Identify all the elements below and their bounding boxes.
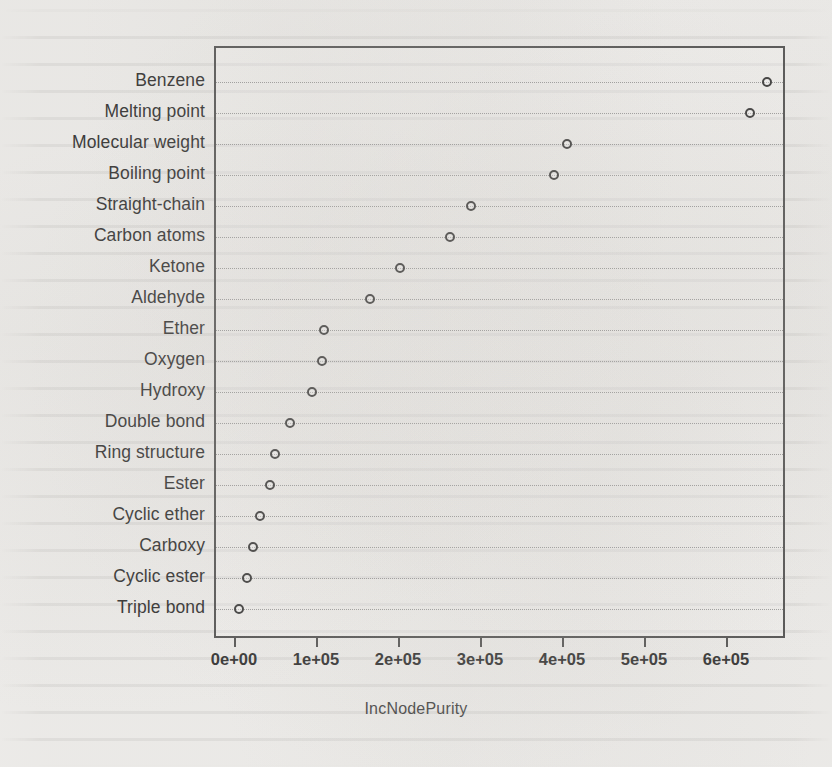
data-point: [549, 170, 559, 180]
y-axis-label-boiling-point: Boiling point: [5, 163, 205, 184]
data-point: [445, 232, 455, 242]
gridline: [216, 299, 783, 300]
gridline: [216, 175, 783, 176]
gridline: [216, 578, 783, 579]
gridline: [216, 392, 783, 393]
y-axis-label-hydroxy: Hydroxy: [5, 380, 205, 401]
y-axis-label-benzene: Benzene: [5, 70, 205, 91]
gridline: [216, 82, 783, 83]
data-point: [265, 480, 275, 490]
data-point: [319, 325, 329, 335]
data-point: [395, 263, 405, 273]
y-axis-label-oxygen: Oxygen: [5, 349, 205, 370]
data-point: [307, 387, 317, 397]
gridline: [216, 547, 783, 548]
gridline: [216, 485, 783, 486]
y-axis-label-ring-structure: Ring structure: [5, 442, 205, 463]
gridline: [216, 361, 783, 362]
y-axis-label-ether: Ether: [5, 318, 205, 339]
x-axis-tick: [398, 638, 400, 647]
gridline: [216, 113, 783, 114]
gridline: [216, 144, 783, 145]
data-point: [242, 573, 252, 583]
x-axis-tick: [316, 638, 318, 647]
gridline: [216, 423, 783, 424]
data-point: [762, 77, 772, 87]
data-point: [745, 108, 755, 118]
y-axis-label-ketone: Ketone: [5, 256, 205, 277]
data-point: [248, 542, 258, 552]
y-axis-label-triple-bond: Triple bond: [5, 597, 205, 618]
y-axis-label-ester: Ester: [5, 473, 205, 494]
data-point: [234, 604, 244, 614]
x-axis-tick: [562, 638, 564, 647]
x-axis-tick: [234, 638, 236, 647]
data-point: [365, 294, 375, 304]
y-axis-label-cyclic-ether: Cyclic ether: [5, 504, 205, 525]
x-axis-tick-label: 6e+05: [666, 650, 786, 669]
y-axis-label-molecular-weight: Molecular weight: [5, 132, 205, 153]
data-point: [255, 511, 265, 521]
x-axis-tick: [726, 638, 728, 647]
data-point: [317, 356, 327, 366]
y-axis-label-carbon-atoms: Carbon atoms: [5, 225, 205, 246]
gridline: [216, 206, 783, 207]
y-axis-label-melting-point: Melting point: [5, 101, 205, 122]
gridline: [216, 237, 783, 238]
y-axis-label-aldehyde: Aldehyde: [5, 287, 205, 308]
y-axis-label-cyclic-ester: Cyclic ester: [5, 566, 205, 587]
y-axis-label-carboxy: Carboxy: [5, 535, 205, 556]
gridline: [216, 268, 783, 269]
gridline: [216, 609, 783, 610]
y-axis-label-double-bond: Double bond: [5, 411, 205, 432]
variable-importance-dotplot: BenzeneMelting pointMolecular weightBoil…: [0, 0, 832, 767]
x-axis-tick: [480, 638, 482, 647]
data-point: [285, 418, 295, 428]
gridline: [216, 516, 783, 517]
data-point: [270, 449, 280, 459]
plot-area: [214, 46, 785, 638]
x-axis-tick: [644, 638, 646, 647]
data-point: [466, 201, 476, 211]
gridline: [216, 454, 783, 455]
data-point: [562, 139, 572, 149]
gridline: [216, 330, 783, 331]
y-axis-label-straight-chain: Straight-chain: [5, 194, 205, 215]
x-axis-title: IncNodePurity: [0, 700, 832, 718]
